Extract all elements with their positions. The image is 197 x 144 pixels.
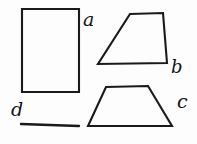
- shapes-svg: [0, 0, 197, 144]
- figure-canvas: a b c d: [0, 0, 197, 144]
- shape-label-b: b: [171, 58, 183, 76]
- shape-rectangle-a[interactable]: [22, 9, 79, 92]
- shape-label-c: c: [177, 92, 188, 111]
- shape-trapezoid-b[interactable]: [98, 13, 167, 64]
- shape-label-d: d: [11, 100, 23, 119]
- shape-trapezoid-c[interactable]: [88, 86, 172, 126]
- shape-line-segment-d[interactable]: [21, 124, 79, 126]
- shape-label-a: a: [83, 10, 94, 29]
